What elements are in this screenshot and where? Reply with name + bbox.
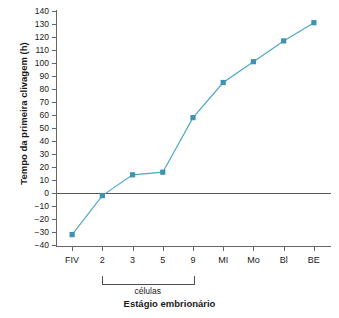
x-axis-tick — [72, 246, 73, 251]
x-axis-tick-label: BE — [294, 256, 334, 265]
y-axis-tick-label: −10 — [9, 202, 49, 211]
data-point — [190, 115, 195, 120]
data-point — [70, 232, 75, 237]
data-point — [251, 59, 256, 64]
y-axis-tick-label: 140 — [9, 7, 49, 16]
y-axis-tick-label: 110 — [9, 46, 49, 55]
y-axis-tick-label: 20 — [9, 163, 49, 172]
y-axis-tick-label: 50 — [9, 124, 49, 133]
x-axis-tick — [314, 246, 315, 251]
data-point — [221, 80, 226, 85]
y-axis-tick-label: 90 — [9, 72, 49, 81]
cells-bracket — [102, 276, 195, 285]
y-axis-tick — [52, 141, 57, 142]
x-axis-tick — [193, 246, 194, 251]
data-point — [160, 170, 165, 175]
y-axis-tick — [52, 167, 57, 168]
y-axis-tick-label: 40 — [9, 137, 49, 146]
series-markers — [70, 20, 317, 237]
cells-bracket-label: células — [102, 287, 193, 296]
y-axis-tick — [52, 115, 57, 116]
zero-reference-line — [57, 193, 331, 194]
y-axis-tick — [52, 63, 57, 64]
x-axis-title: Estágio embrionário — [0, 298, 339, 309]
y-axis-tick — [52, 206, 57, 207]
y-axis-tick-label: 10 — [9, 176, 49, 185]
y-axis-tick — [52, 76, 57, 77]
x-axis-tick — [223, 246, 224, 251]
y-axis-tick — [52, 245, 57, 246]
y-axis-tick-label: 60 — [9, 111, 49, 120]
y-axis-tick-label: 80 — [9, 85, 49, 94]
y-axis-tick — [52, 37, 57, 38]
series-line — [72, 23, 314, 235]
y-axis-tick-label: −30 — [9, 228, 49, 237]
y-axis-tick — [52, 24, 57, 25]
x-axis-tick — [102, 246, 103, 251]
x-axis-tick — [133, 246, 134, 251]
y-axis-tick-label: 120 — [9, 33, 49, 42]
y-axis-tick-label: 100 — [9, 59, 49, 68]
y-axis-tick — [52, 50, 57, 51]
y-axis-tick-label: −40 — [9, 241, 49, 250]
y-axis-tick — [52, 102, 57, 103]
y-axis-tick-label: 30 — [9, 150, 49, 159]
data-point — [130, 172, 135, 177]
chart-container: Tempo da primeira clivagem (h) 140130120… — [0, 0, 339, 318]
x-axis-tick — [284, 246, 285, 251]
data-series-layer — [0, 0, 339, 318]
y-axis-tick — [52, 11, 57, 12]
data-point — [311, 20, 316, 25]
x-axis-tick — [253, 246, 254, 251]
x-axis-tick — [163, 246, 164, 251]
y-axis-tick — [52, 232, 57, 233]
data-point — [281, 38, 286, 43]
y-axis-tick-label: 0 — [9, 189, 49, 198]
y-axis-tick — [52, 219, 57, 220]
y-axis-tick-label: −20 — [9, 215, 49, 224]
y-axis-tick-label: 70 — [9, 98, 49, 107]
y-axis-tick — [52, 154, 57, 155]
y-axis-tick-label: 130 — [9, 20, 49, 29]
y-axis-tick — [52, 180, 57, 181]
y-axis-tick — [52, 89, 57, 90]
y-axis-tick — [52, 128, 57, 129]
